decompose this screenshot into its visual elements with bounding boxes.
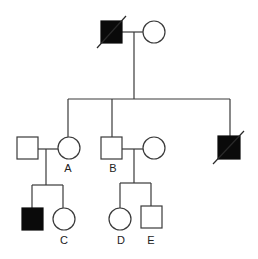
unaffected-female-grandmother [143, 21, 165, 43]
label-B: B [109, 162, 116, 174]
unaffected-male-spouse-of-A [17, 137, 38, 159]
generation-2: A B [17, 131, 244, 185]
unaffected-female-spouse-of-B [143, 137, 165, 159]
label-D: D [117, 234, 125, 246]
generation-3-family-A: C [22, 185, 75, 246]
label-A: A [64, 162, 72, 174]
unaffected-female-A [58, 137, 80, 159]
generation-1 [97, 16, 165, 99]
pedigree-chart: A B C D E [0, 0, 258, 259]
generation-3-family-B: D E [109, 183, 162, 246]
label-C: C [60, 234, 68, 246]
unaffected-male-E [141, 206, 162, 228]
label-E: E [147, 234, 154, 246]
affected-male-son-of-A [22, 208, 43, 230]
unaffected-female-C [53, 208, 75, 230]
unaffected-male-B [101, 137, 122, 159]
unaffected-female-D [109, 208, 131, 230]
sibship-gen2 [68, 99, 230, 137]
